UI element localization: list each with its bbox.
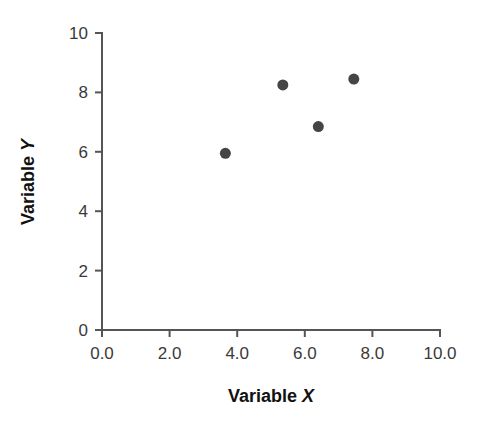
x-axis-title: Variable X	[228, 386, 315, 406]
x-tick-label-0: 0.0	[90, 344, 114, 363]
data-point	[277, 79, 288, 90]
data-point	[313, 121, 324, 132]
x-tick-label-8: 8.0	[361, 344, 385, 363]
scatter-plot-figure: 0 2 4 6 8 10 0.0 2.0 4.0 6.0 8.0 10.0 Va…	[0, 0, 486, 425]
x-tick-label-2: 2.0	[158, 344, 182, 363]
y-axis-title: Variable Y	[18, 137, 38, 225]
data-point	[348, 74, 359, 85]
y-axis-title-variable: Y	[18, 137, 38, 151]
y-tick-label-4: 4	[79, 202, 88, 221]
y-tick-label-8: 8	[79, 83, 88, 102]
x-axis-title-variable: X	[301, 386, 315, 406]
data-point	[220, 148, 231, 159]
x-axis-title-prefix: Variable	[228, 386, 302, 406]
y-tick-label-0: 0	[79, 321, 88, 340]
y-tick-label-6: 6	[79, 143, 88, 162]
x-tick-label-10: 10.0	[423, 344, 456, 363]
x-tick-label-4: 4.0	[225, 344, 249, 363]
y-axis-title-prefix: Variable	[18, 151, 38, 225]
x-tick-label-6: 6.0	[293, 344, 317, 363]
y-tick-label-2: 2	[79, 262, 88, 281]
plot-canvas: 0 2 4 6 8 10 0.0 2.0 4.0 6.0 8.0 10.0 Va…	[0, 0, 486, 425]
y-tick-label-10: 10	[69, 24, 88, 43]
